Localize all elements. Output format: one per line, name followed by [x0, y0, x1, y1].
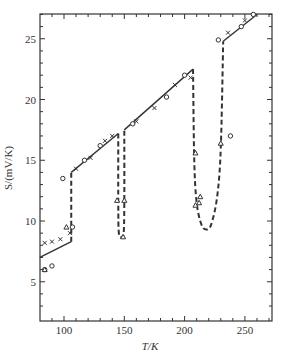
x-tick-label: 250 [237, 324, 254, 336]
circle-marker [182, 73, 186, 77]
curve-solid [71, 134, 118, 173]
circle-marker [228, 134, 232, 138]
curve-dashed [193, 41, 223, 229]
circle-marker [164, 95, 168, 99]
cross-marker [152, 106, 156, 110]
y-tick-label: 5 [31, 276, 37, 288]
cross-marker [189, 76, 193, 80]
circle-marker [98, 143, 102, 147]
y-axis-title: S/(mV/K) [2, 146, 15, 190]
y-tick-label: 10 [25, 215, 37, 227]
cross-marker [50, 240, 54, 244]
triangle-marker [218, 141, 223, 146]
cross-marker [103, 139, 107, 143]
curve-solid [40, 242, 71, 258]
data-curves [40, 14, 257, 257]
y-tick-label: 15 [25, 154, 37, 166]
circle-marker [216, 38, 220, 42]
cross-marker [173, 83, 177, 87]
circle-marker [251, 12, 255, 16]
cross-marker [243, 19, 247, 23]
seebeck-chart: 100150200250510152025 T/K S/(mV/K) [0, 0, 286, 356]
cross-marker [226, 31, 230, 35]
x-tick-label: 200 [176, 324, 193, 336]
cross-marker [43, 241, 47, 245]
axis-ticks: 100150200250510152025 [25, 14, 272, 336]
circle-marker [131, 122, 135, 126]
circle-marker [82, 158, 86, 162]
triangle-marker [64, 225, 69, 230]
triangle-marker [198, 194, 203, 199]
y-tick-label: 20 [25, 94, 37, 106]
circle-marker [239, 24, 243, 28]
x-tick-label: 150 [116, 324, 133, 336]
circle-marker [50, 264, 54, 268]
cross-marker [58, 237, 62, 241]
cross-marker [110, 134, 114, 138]
y-tick-label: 25 [25, 33, 37, 45]
circle-marker [61, 176, 65, 180]
curve-solid [124, 69, 193, 130]
triangle-marker [122, 198, 127, 203]
x-tick-label: 100 [56, 324, 73, 336]
circle-marker [70, 225, 74, 229]
triangle-marker [121, 234, 126, 239]
x-axis-title: T/K [142, 340, 159, 352]
curve-dashed [118, 130, 124, 237]
